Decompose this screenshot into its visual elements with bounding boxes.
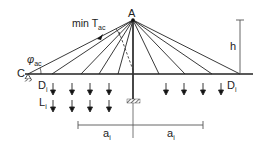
down-arrow-icon [182, 83, 187, 95]
down-arrow-icon [51, 83, 56, 95]
down-arrow-icon [107, 100, 112, 112]
cable-stayed-diagram: A min Tac φac C h Di Di Li ai ai [0, 0, 264, 148]
dead-load-right-label: Di [227, 79, 237, 93]
pin-support-icon [25, 74, 31, 79]
down-arrow-icon [51, 100, 56, 112]
dead-load-left-label: Di [38, 79, 48, 93]
down-arrow-icon [88, 83, 93, 95]
ground-hatch-icon [127, 99, 140, 103]
down-arrow-icon [88, 100, 93, 112]
cable [133, 20, 240, 74]
spacing-dimension [78, 121, 203, 129]
live-load-label: Li [39, 96, 47, 110]
down-arrow-icon [201, 83, 206, 95]
tension-arrow-icon [97, 34, 103, 40]
anchor-label: C [17, 67, 25, 79]
angle-phi-label: φac [27, 53, 42, 67]
cable [133, 20, 159, 74]
cable [133, 20, 185, 74]
cable [133, 20, 212, 74]
down-arrow-icon [70, 100, 75, 112]
live-load-arrows [51, 100, 112, 112]
support-hatch-icon [24, 79, 32, 82]
apex-label: A [128, 7, 136, 19]
height-dimension [236, 20, 244, 74]
down-arrow-icon [219, 83, 224, 95]
height-label: h [230, 40, 236, 52]
down-arrow-icon [70, 83, 75, 95]
dead-load-arrows [51, 83, 224, 95]
spacing-right-label: ai [167, 127, 175, 141]
down-arrow-icon [107, 83, 112, 95]
min-tension-label: min Tac [72, 17, 106, 31]
angle-arc-phi [40, 68, 41, 74]
right-cables [133, 20, 240, 74]
spacing-left-label: ai [103, 127, 111, 141]
down-arrow-icon [164, 83, 169, 95]
